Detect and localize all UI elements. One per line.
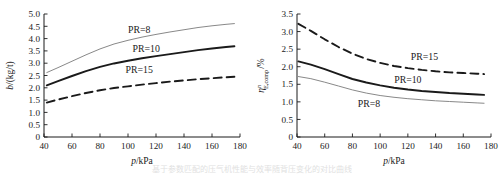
y-tick-label: 2.0 — [29, 83, 41, 93]
series-label-pr-10: PR=10 — [133, 43, 160, 54]
series-label-pr-10: PR=10 — [394, 74, 421, 85]
figure-caption: 基于参数匹配的压气机性能与效率随背压变化的对比曲线 — [0, 165, 503, 174]
series-label-pr-15: PR=15 — [411, 51, 438, 62]
y-tick-label: 2.5 — [282, 44, 294, 54]
series-curve-pr-15 — [47, 77, 235, 103]
x-tick-label: 80 — [95, 141, 105, 151]
series-label-pr-8: PR=8 — [358, 98, 381, 109]
y-tick-label: 3.5 — [282, 9, 294, 19]
series-curve-pr-10 — [298, 61, 484, 94]
x-tick-label: 40 — [39, 141, 49, 151]
series-curve-pr-15 — [298, 24, 484, 74]
y-tick-label: 5.0 — [29, 9, 41, 19]
y-tick-label: 2.0 — [282, 62, 294, 72]
chart-panel-left: 00.51.01.52.02.53.03.54.04.55.0406080100… — [0, 0, 251, 174]
y-axis-title: b/(kg/t) — [5, 61, 16, 90]
right-chart-svg: 00.51.01.52.02.53.03.5406080100120140160… — [251, 0, 503, 174]
y-tick-label: 3.5 — [29, 46, 41, 56]
x-tick-label: 60 — [67, 141, 77, 151]
figure-container: 00.51.01.52.02.53.03.54.04.55.0406080100… — [0, 0, 503, 174]
x-tick-label: 140 — [177, 141, 191, 151]
y-axis-title: ηnE,comp/% — [255, 58, 269, 93]
x-tick-label: 160 — [205, 141, 219, 151]
x-tick-label: 180 — [233, 141, 247, 151]
y-tick-label: 1.0 — [282, 97, 294, 107]
figure-caption-strip: 基于参数匹配的压气机性能与效率随背压变化的对比曲线 — [0, 165, 503, 174]
x-tick-label: 100 — [373, 141, 387, 151]
x-tick-label: 120 — [149, 141, 163, 151]
x-tick-label: 80 — [348, 141, 358, 151]
series-label-pr-15: PR=15 — [126, 64, 153, 75]
y-tick-label: 1.5 — [282, 79, 294, 89]
x-tick-label: 60 — [320, 141, 330, 151]
y-tick-label: 2.5 — [29, 71, 41, 81]
chart-panel-right: 00.51.01.52.02.53.03.5406080100120140160… — [251, 0, 503, 174]
y-tick-label: 4.5 — [29, 22, 41, 32]
y-tick-label: 3.0 — [29, 58, 41, 68]
x-tick-label: 140 — [429, 141, 443, 151]
x-tick-label: 120 — [401, 141, 415, 151]
y-tick-label: 0.5 — [29, 120, 41, 130]
left-chart-svg: 00.51.01.52.02.53.03.54.04.55.0406080100… — [0, 0, 251, 174]
series-label-pr-8: PR=8 — [128, 24, 151, 35]
x-tick-label: 40 — [292, 141, 302, 151]
y-tick-label: 1.0 — [29, 108, 41, 118]
x-tick-label: 100 — [121, 141, 135, 151]
y-tick-label: 3.0 — [282, 27, 294, 37]
y-tick-label: 0.5 — [282, 115, 294, 125]
x-tick-label: 160 — [456, 141, 470, 151]
y-tick-label: 4.0 — [29, 34, 41, 44]
series-curve-pr-8 — [298, 77, 484, 104]
y-tick-label: 1.5 — [29, 95, 41, 105]
x-tick-label: 180 — [484, 141, 498, 151]
